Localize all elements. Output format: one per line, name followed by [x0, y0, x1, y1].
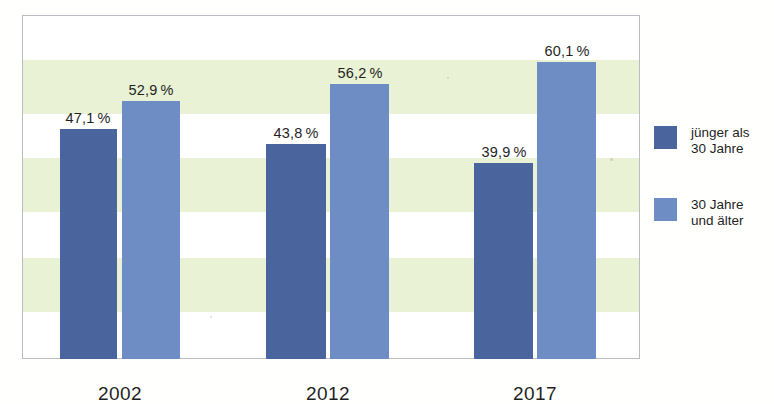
x-axis-tick-2002: 2002 — [98, 383, 142, 404]
bar-value-label-2017-juenger-als-30: 39,9 % — [481, 144, 526, 160]
legend-item-juenger-als-30[interactable]: jünger als30 Jahre — [654, 125, 772, 157]
bar-2002-30-und-aelter[interactable] — [122, 101, 180, 359]
x-axis-tick-2017: 2017 — [513, 383, 557, 404]
bar-value-label-2002-30-und-aelter: 52,9 % — [128, 82, 173, 98]
legend-label-line1: jünger als — [691, 125, 750, 140]
bar-value-label-2017-30-und-aelter: 60,1 % — [544, 43, 589, 59]
bar-2012-30-und-aelter[interactable] — [330, 84, 389, 359]
legend-swatch-icon-30-und-aelter — [654, 198, 677, 221]
scan-artifact — [610, 158, 613, 161]
chart-figure: 47,1 % 52,9 % 43,8 % 56,2 % 39,9 % 60,1 … — [0, 0, 774, 404]
x-axis-tick-2012: 2012 — [306, 383, 350, 404]
bar-value-label-2002-juenger-als-30: 47,1 % — [65, 110, 110, 126]
legend-label-line1: 30 Jahre — [691, 197, 744, 212]
bar-value-label-2012-30-und-aelter: 56,2 % — [337, 65, 382, 81]
plot-area: 47,1 % 52,9 % 43,8 % 56,2 % 39,9 % 60,1 … — [22, 15, 640, 359]
bar-2017-30-und-aelter[interactable] — [537, 62, 596, 359]
bar-value-label-2012-juenger-als-30: 43,8 % — [273, 125, 318, 141]
bar-2002-juenger-als-30[interactable] — [60, 129, 117, 359]
chart-legend: jünger als30 Jahre 30 Jahreund älter — [654, 125, 772, 269]
legend-item-30-und-aelter[interactable]: 30 Jahreund älter — [654, 197, 772, 229]
legend-label-line2: und älter — [691, 213, 744, 228]
bar-2012-juenger-als-30[interactable] — [266, 144, 326, 359]
legend-label-line2: 30 Jahre — [691, 141, 744, 156]
scan-artifact — [210, 316, 212, 318]
bar-2017-juenger-als-30[interactable] — [474, 163, 533, 359]
legend-swatch-icon-juenger-als-30 — [654, 126, 677, 149]
legend-label-juenger-als-30: jünger als30 Jahre — [691, 125, 750, 157]
legend-label-30-und-aelter: 30 Jahreund älter — [691, 197, 744, 229]
scan-artifact — [447, 77, 449, 79]
